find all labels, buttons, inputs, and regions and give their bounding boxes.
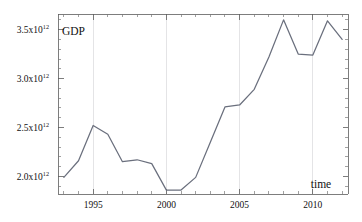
- chart-container: 2.0x10122.5x10123.0x10123.5x101219952000…: [0, 0, 362, 222]
- y-tick-label: 3.0x1012: [17, 72, 49, 84]
- data-line-gdp: [64, 20, 342, 190]
- x-tick-label: 1995: [84, 200, 103, 210]
- y-tick-label: 2.0x1012: [17, 170, 49, 182]
- x-tick-label: 2010: [303, 200, 322, 210]
- gdp-line-chart: 2.0x10122.5x10123.0x10123.5x101219952000…: [0, 0, 362, 222]
- axis-frame: [58, 14, 348, 194]
- y-axis-title: GDP: [62, 25, 85, 37]
- gridlines: [93, 14, 313, 194]
- x-tick-label: 2000: [157, 200, 176, 210]
- y-tick-label: 3.5x1012: [17, 23, 49, 35]
- x-tick-label: 2005: [230, 200, 249, 210]
- x-axis-title: time: [311, 178, 331, 190]
- axis-ticks: [58, 14, 348, 194]
- data-series-gdp: [64, 20, 342, 190]
- tick-labels: 2.0x10122.5x10123.0x10123.5x101219952000…: [17, 23, 323, 210]
- y-tick-label: 2.5x1012: [17, 121, 49, 133]
